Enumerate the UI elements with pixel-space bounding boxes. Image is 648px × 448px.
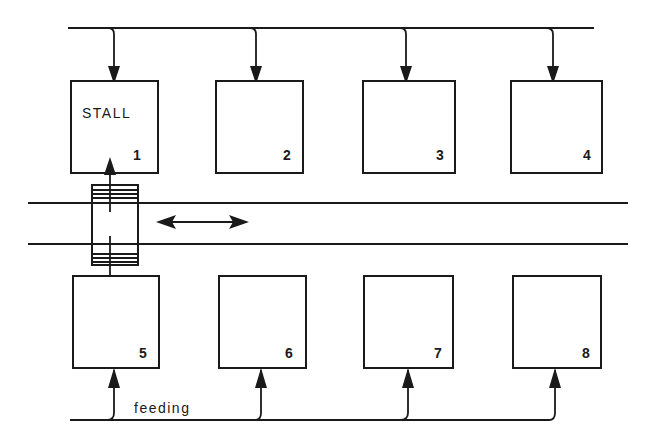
feeding-label: feeding: [134, 400, 190, 416]
top-supply-branches: [108, 28, 559, 84]
stall-layout-diagram: STALL 1 2 3 4: [0, 0, 648, 448]
stall-2: 2: [216, 81, 303, 173]
corridor: [28, 203, 628, 244]
stall-number: 8: [582, 345, 590, 361]
stall-number: 6: [285, 345, 293, 361]
stall-number: 5: [139, 345, 147, 361]
stall-number: 2: [283, 147, 291, 163]
arrowhead-stall-6: [255, 368, 267, 388]
stall-6: 6: [219, 276, 306, 368]
arrowhead-stall-7: [402, 368, 414, 388]
stall-5: 5: [73, 276, 159, 368]
arrowhead-stall-5: [108, 368, 120, 388]
stall-3: 3: [363, 81, 455, 173]
stall-8: 8: [513, 276, 601, 368]
stall-number: 1: [133, 147, 141, 163]
arrowhead-stall-8: [549, 368, 561, 388]
travel-direction-arrow: [156, 215, 249, 229]
stall-number: 7: [434, 345, 442, 361]
stall-7: 7: [364, 276, 453, 368]
stall-number: 3: [436, 147, 444, 163]
stall-4: 4: [511, 81, 602, 173]
stall-title: STALL: [82, 105, 131, 121]
shuttle-cart: [92, 185, 138, 265]
stall-1: STALL 1: [71, 81, 158, 173]
stall-number: 4: [583, 147, 591, 163]
